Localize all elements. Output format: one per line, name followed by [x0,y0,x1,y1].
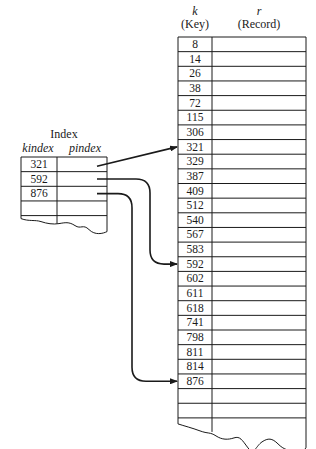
table-lines-and-arrows [0,0,316,449]
indexed-sequential-diagram: k (Key) r (Record) Index kindex pindex 8… [0,0,316,449]
